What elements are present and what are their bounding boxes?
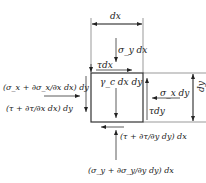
stress-element-diagram: dx dy σ_y dx τdx γ_c dx dy σ_x dy τdy (σ… <box>0 0 206 183</box>
top-normal-force-label: σ_y dx <box>118 45 147 55</box>
top-shear-force-label: τdx <box>97 60 113 70</box>
bottom-shear-force-label: (τ + ∂τ/∂y dy) dx <box>120 132 187 142</box>
dx-dimension-label: dx <box>110 11 121 21</box>
right-shear-force-label: τdy <box>149 106 165 116</box>
left-shear-force-label: (τ + ∂τ/∂x dx) dy <box>6 104 73 114</box>
left-normal-force-label: (σ_x + ∂σ_x/∂x dx) dy <box>3 83 89 93</box>
bottom-normal-force-label: (σ_y + ∂σ_y/∂y dy) dx <box>88 166 174 176</box>
dy-dimension-label: dy <box>196 81 206 92</box>
right-normal-force-label: σ_x dy <box>160 88 189 98</box>
body-force-label: γ_c dx dy <box>100 77 142 87</box>
